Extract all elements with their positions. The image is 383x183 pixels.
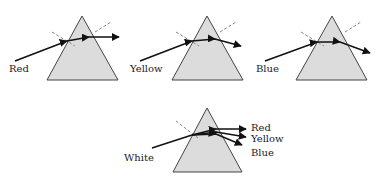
prism-red — [47, 16, 118, 80]
normal-line — [345, 22, 361, 32]
output-label-red: Red — [251, 122, 271, 133]
normal-line — [220, 22, 236, 32]
label-white: White — [124, 152, 154, 163]
panel-red: Red — [9, 16, 119, 80]
label-blue: Blue — [256, 63, 279, 74]
output-label-yellow: Yellow — [250, 133, 284, 144]
panel-blue: Blue — [256, 16, 370, 80]
output-label-blue: Blue — [251, 147, 274, 158]
panel-yellow: Yellow — [129, 16, 243, 80]
normal-line — [95, 22, 111, 32]
ray-white — [152, 135, 192, 148]
prism-dispersion-diagram: Red Yellow Blue White Red Yellow Blue — [0, 0, 383, 183]
label-red: Red — [9, 63, 29, 74]
prism-yellow — [172, 16, 243, 80]
panel-white: White Red Yellow Blue — [124, 108, 284, 172]
label-yellow: Yellow — [129, 63, 163, 74]
